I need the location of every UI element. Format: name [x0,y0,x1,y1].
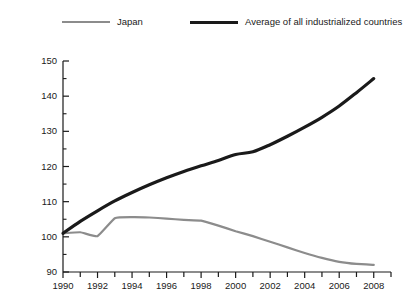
x-tick-label: 2004 [288,281,322,291]
y-tick-label: 110 [31,197,57,207]
x-tick-label: 2002 [253,281,287,291]
chart-canvas [0,0,408,306]
series-line-average-of-all-industrialized-countries [63,79,374,234]
x-tick-label: 1996 [150,281,184,291]
y-tick-label: 150 [31,56,57,66]
x-tick-label: 1998 [184,281,218,291]
y-tick-label: 130 [31,126,57,136]
x-tick-label: 1994 [115,281,149,291]
y-tick-label: 100 [31,232,57,242]
series-line-japan [63,217,374,265]
y-tick-label: 140 [31,91,57,101]
x-tick-label: 2000 [219,281,253,291]
x-tick-label: 2008 [357,281,391,291]
y-tick-label: 90 [31,267,57,277]
x-tick-label: 1992 [81,281,115,291]
chart-root: Japan Average of all industrialized coun… [0,0,408,306]
x-tick-label: 2006 [322,281,356,291]
x-tick-label: 1990 [46,281,80,291]
y-tick-label: 120 [31,162,57,172]
plot-area: 9010011012013014015019901992199419961998… [0,0,408,306]
